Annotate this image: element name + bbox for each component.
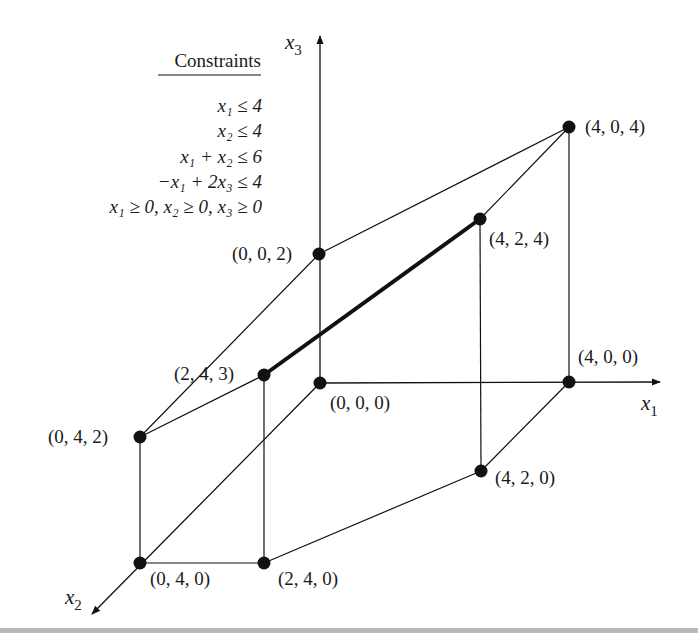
constraint-line: x₂ ≤ 4 bbox=[217, 120, 263, 141]
bottom-rule bbox=[0, 628, 698, 633]
vertex-404 bbox=[563, 121, 576, 134]
label-404: (4, 0, 4) bbox=[585, 116, 645, 138]
label-040: (0, 4, 0) bbox=[150, 568, 210, 590]
constraints-panel: Constraints x₁ ≤ 4 x₂ ≤ 4 x₁ + x₂ ≤ 6 −x… bbox=[109, 50, 263, 217]
constraint-line: x₁ + x₂ ≤ 6 bbox=[179, 146, 262, 167]
label-002: (0, 0, 2) bbox=[232, 243, 292, 265]
constraint-line: x₁ ≤ 4 bbox=[217, 95, 263, 116]
label-400: (4, 0, 0) bbox=[578, 346, 638, 368]
label-000: (0, 0, 0) bbox=[330, 392, 390, 414]
vertex-424 bbox=[474, 213, 487, 226]
x3-axis-label: x3 bbox=[284, 30, 302, 58]
constraints-heading: Constraints bbox=[174, 50, 261, 71]
vertex-420 bbox=[475, 465, 488, 478]
x2-axis-label: x2 bbox=[64, 585, 82, 613]
axes bbox=[92, 36, 660, 614]
label-420: (4, 2, 0) bbox=[495, 467, 555, 489]
vertex-243 bbox=[258, 369, 271, 382]
vertex-labels: (0, 0, 0) (4, 0, 0) (4, 2, 0) (2, 4, 0) … bbox=[48, 116, 645, 590]
x1-axis bbox=[320, 382, 660, 383]
highlighted-edge bbox=[264, 219, 480, 375]
vertex-002 bbox=[313, 248, 326, 261]
vertex-040 bbox=[134, 557, 147, 570]
label-424: (4, 2, 4) bbox=[489, 228, 549, 250]
polyhedron-edges bbox=[140, 127, 569, 563]
label-042: (0, 4, 2) bbox=[48, 426, 108, 448]
vertex-000 bbox=[314, 377, 327, 390]
polyhedron-diagram: (0, 0, 0) (4, 0, 0) (4, 2, 0) (2, 4, 0) … bbox=[0, 0, 698, 633]
x1-axis-label: x1 bbox=[640, 391, 658, 419]
constraint-line: x₁ ≥ 0, x₂ ≥ 0, x₃ ≥ 0 bbox=[109, 196, 263, 217]
label-240: (2, 4, 0) bbox=[278, 568, 338, 590]
vertex-240 bbox=[258, 557, 271, 570]
vertex-042 bbox=[134, 431, 147, 444]
constraint-line: −x₁ + 2x₃ ≤ 4 bbox=[158, 171, 263, 192]
label-243: (2, 4, 3) bbox=[174, 363, 234, 385]
vertex-400 bbox=[563, 376, 576, 389]
